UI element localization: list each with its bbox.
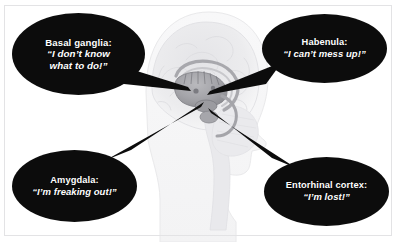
callout-habenula-label: Habenula:: [283, 37, 365, 48]
callout-habenula: Habenula: “I can’t mess up!”: [262, 14, 387, 83]
callout-amygdala-quote-line-1: “I’m freaking out!”: [32, 186, 116, 197]
callout-basal-ganglia-quote-line-1: “I don’t know: [45, 48, 111, 60]
callout-basal-ganglia-quote-line-2: what to do!”: [45, 60, 111, 72]
callout-basal-ganglia-label: Basal ganglia:: [45, 37, 111, 48]
callout-entorhinal-cortex-label: Entorhinal cortex:: [286, 180, 367, 191]
callout-entorhinal-cortex: Entorhinal cortex: “I’m lost!”: [264, 157, 389, 226]
callout-entorhinal-cortex-text: Entorhinal cortex: “I’m lost!”: [280, 180, 373, 202]
callout-amygdala: Amygdala: “I’m freaking out!”: [12, 150, 137, 222]
callout-amygdala-label: Amygdala:: [32, 175, 116, 186]
callout-basal-ganglia: Basal ganglia: “I don’t know what to do!…: [12, 13, 145, 95]
callout-amygdala-text: Amygdala: “I’m freaking out!”: [26, 175, 122, 197]
callout-entorhinal-cortex-quote-line-1: “I’m lost!”: [286, 191, 367, 202]
connector-entorhinal-cortex: [208, 108, 296, 168]
callout-habenula-text: Habenula: “I can’t mess up!”: [277, 37, 371, 59]
callout-basal-ganglia-text: Basal ganglia: “I don’t know what to do!…: [39, 37, 117, 71]
figure-root: Basal ganglia: “I don’t know what to do!…: [0, 0, 397, 242]
callout-habenula-quote-line-1: “I can’t mess up!”: [283, 48, 365, 59]
connector-amygdala: [106, 102, 204, 160]
